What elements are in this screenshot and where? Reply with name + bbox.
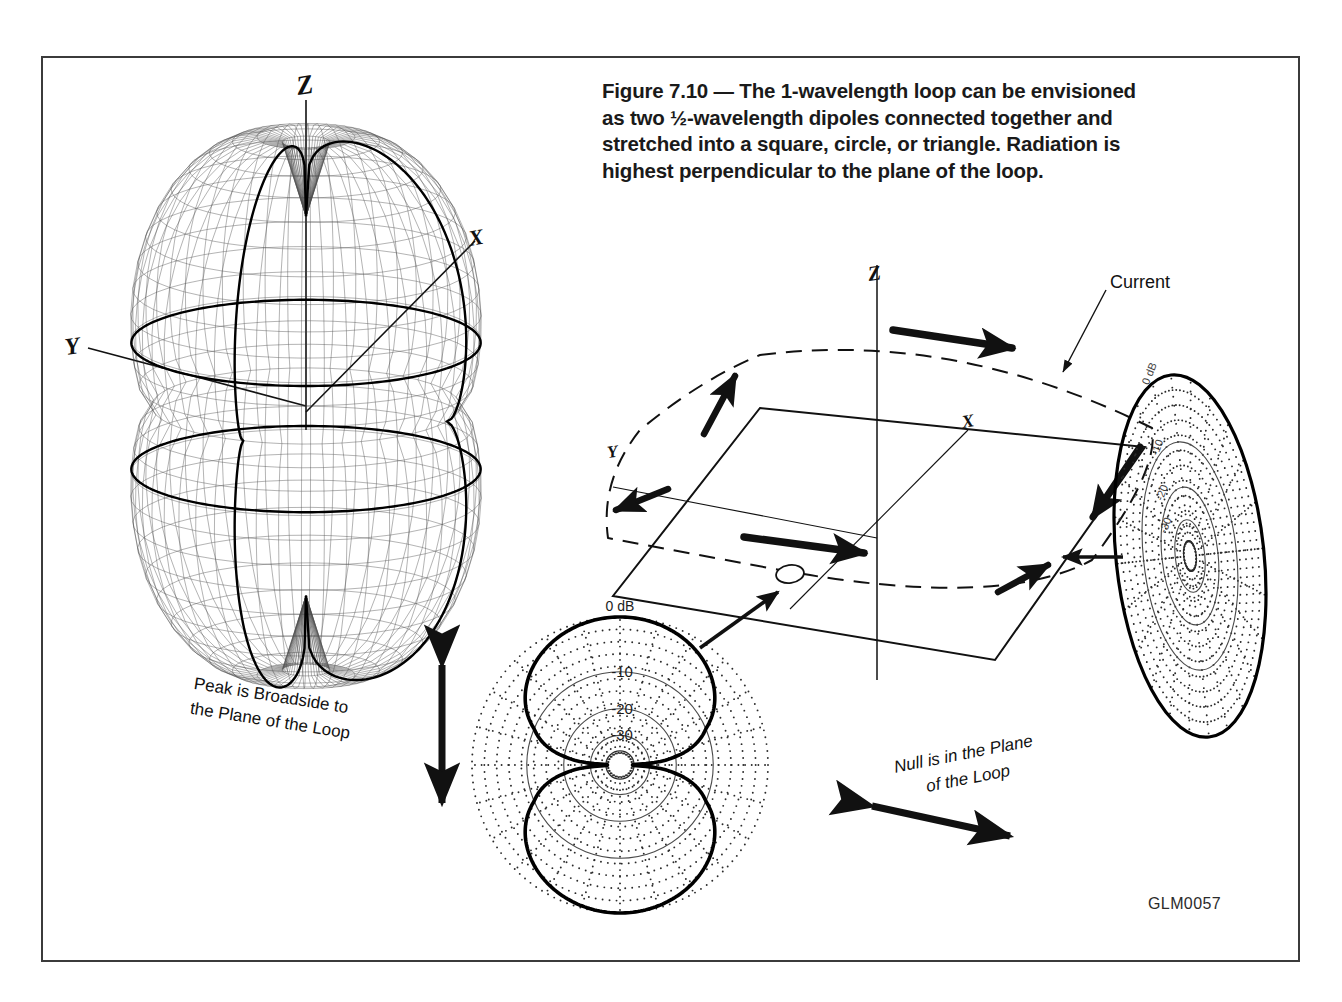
figure-id-tag: GLM0057	[1148, 895, 1221, 913]
figure-caption: Figure 7.10 — The 1-wavelength loop can …	[602, 78, 1162, 185]
current-label: Current	[1110, 272, 1170, 293]
figure-root: Z Y X Z X Y	[0, 0, 1342, 1002]
figure-border	[41, 56, 1300, 962]
